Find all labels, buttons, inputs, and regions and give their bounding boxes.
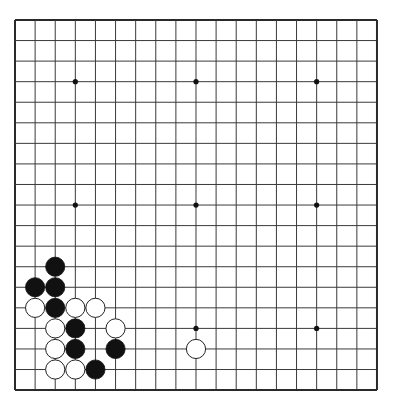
star-point-icon <box>73 202 78 207</box>
black-stone <box>106 339 125 358</box>
white-stone <box>186 339 205 358</box>
black-stone <box>86 360 105 379</box>
black-stone <box>26 278 45 297</box>
black-stone <box>46 257 65 276</box>
white-stone <box>66 360 85 379</box>
black-stone <box>66 339 85 358</box>
white-stone <box>26 298 45 317</box>
star-point-icon <box>193 202 198 207</box>
star-point-icon <box>193 79 198 84</box>
white-stone <box>46 319 65 338</box>
star-point-icon <box>314 326 319 331</box>
white-stone <box>46 339 65 358</box>
white-stone <box>106 319 125 338</box>
star-point-icon <box>193 326 198 331</box>
star-point-icon <box>314 79 319 84</box>
white-stone <box>86 298 105 317</box>
black-stone <box>46 298 65 317</box>
go-board[interactable] <box>0 0 393 405</box>
black-stone <box>46 278 65 297</box>
white-stone <box>66 298 85 317</box>
black-stone <box>66 319 85 338</box>
star-point-icon <box>314 202 319 207</box>
white-stone <box>46 360 65 379</box>
star-point-icon <box>73 79 78 84</box>
